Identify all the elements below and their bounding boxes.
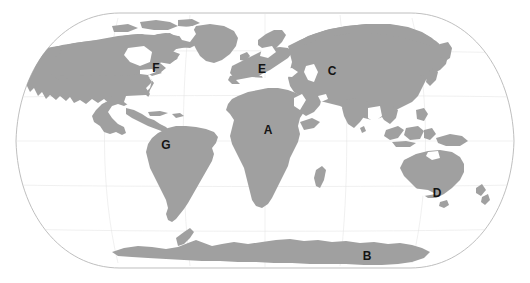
- world-map-figure: A B C D E F G: [0, 0, 530, 283]
- map-label-d: D: [433, 187, 442, 199]
- map-label-g: G: [161, 139, 170, 151]
- map-label-e: E: [258, 63, 266, 75]
- map-label-b: B: [363, 250, 372, 262]
- map-label-a: A: [264, 124, 273, 136]
- map-label-f: F: [152, 62, 159, 74]
- map-label-c: C: [328, 65, 337, 77]
- world-map-graphic: [0, 0, 530, 283]
